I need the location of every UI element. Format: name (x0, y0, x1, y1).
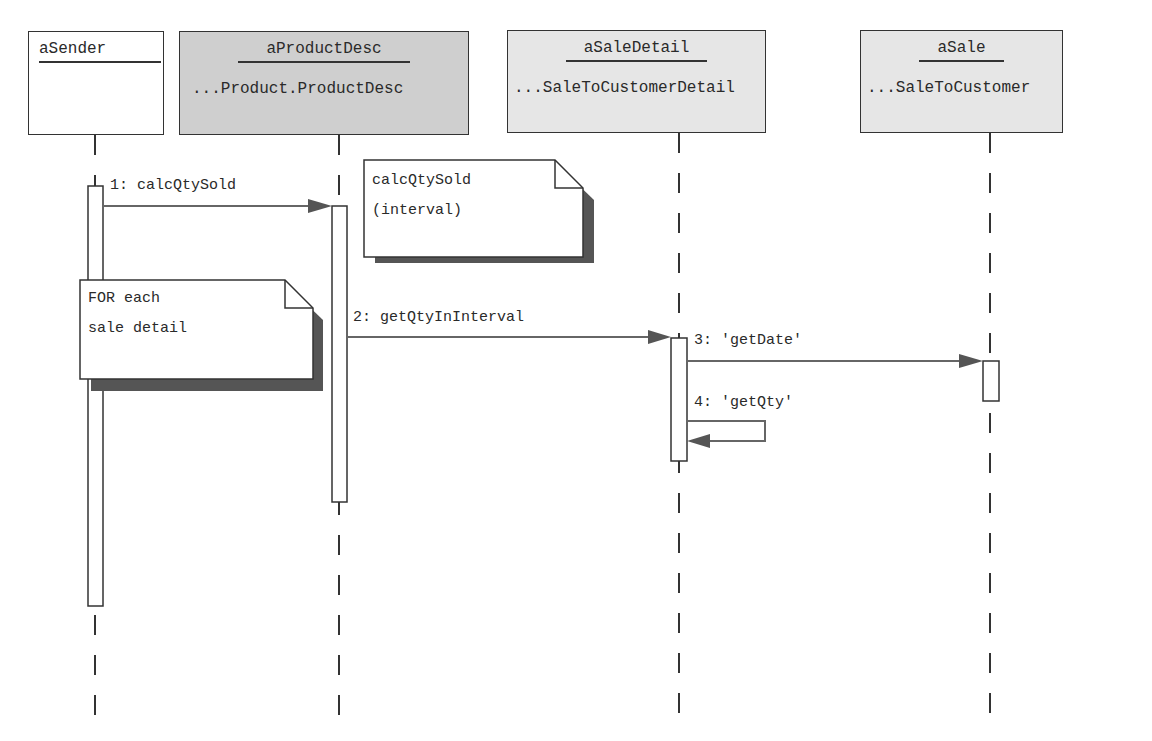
activation-asender (88, 186, 103, 606)
object-aproductdesc: aProductDesc ...Product.ProductDesc (179, 31, 469, 135)
object-asender: aSender (28, 31, 164, 135)
note-text-for-each: FOR each sale detail (88, 284, 187, 344)
message-label-4: 4: 'getQty' (694, 394, 793, 411)
message-label-1: 1: calcQtySold (110, 177, 236, 194)
object-asaledetail: aSaleDetail ...SaleToCustomerDetail (507, 30, 766, 133)
object-class: ...Product.ProductDesc (192, 80, 403, 98)
message-label-3: 3: 'getDate' (694, 332, 802, 349)
object-asale: aSale ...SaleToCustomer (860, 30, 1063, 133)
activation-aproductdesc (332, 206, 347, 502)
object-class: ...SaleToCustomerDetail (514, 79, 735, 97)
note-text-calcqtysold: calcQtySold (interval) (372, 166, 471, 226)
message-label-2: 2: getQtyInInterval (353, 309, 524, 326)
arrowhead-icon (308, 199, 332, 213)
activation-asaledetail (671, 338, 687, 461)
object-name: aProductDesc (238, 40, 409, 63)
arrowhead-icon (687, 434, 710, 448)
object-name: aSale (919, 39, 1003, 62)
object-class: ...SaleToCustomer (867, 79, 1030, 97)
activation-asale (983, 361, 999, 401)
object-name: aSaleDetail (566, 39, 708, 62)
arrowhead-icon (959, 354, 983, 368)
object-name: aSender (39, 40, 161, 63)
arrowhead-icon (648, 330, 671, 344)
